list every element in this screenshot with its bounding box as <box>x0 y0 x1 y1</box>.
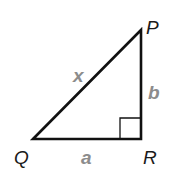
side-label-x: x <box>72 65 85 86</box>
vertex-label-q: Q <box>14 147 29 168</box>
right-angle-marker <box>120 118 141 139</box>
triangle-svg: P Q R x b a <box>0 0 177 176</box>
vertex-label-p: P <box>146 17 159 38</box>
triangle-diagram: P Q R x b a <box>0 0 177 176</box>
triangle-pqr <box>33 30 141 139</box>
vertex-label-r: R <box>143 147 157 168</box>
side-label-b: b <box>148 82 160 103</box>
side-label-a: a <box>81 147 92 168</box>
